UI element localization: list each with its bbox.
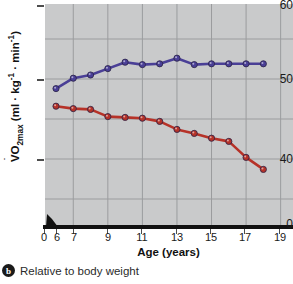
data-point-highlight bbox=[261, 168, 263, 170]
data-point-highlight bbox=[71, 107, 73, 109]
data-point bbox=[174, 126, 180, 132]
data-point-highlight bbox=[71, 76, 73, 78]
x-tick-label-7: 7 bbox=[71, 231, 77, 243]
y-tick-label-60: 60 bbox=[259, 0, 293, 12]
data-point bbox=[191, 62, 197, 68]
data-point bbox=[191, 130, 197, 136]
y-title-sup1: -1 bbox=[7, 73, 16, 80]
x-axis-title: Age (years) bbox=[44, 246, 293, 258]
x-tick-label-9: 9 bbox=[105, 231, 111, 243]
y-tick-60 bbox=[37, 5, 44, 7]
data-point bbox=[105, 114, 111, 120]
data-point-highlight bbox=[261, 62, 263, 64]
y-axis-title: ̇VO2max (ml · kg-1 · min-1) bbox=[7, 0, 24, 197]
data-point-highlight bbox=[210, 62, 212, 64]
y-title-v: V bbox=[9, 154, 21, 162]
y-tick-40 bbox=[37, 159, 44, 161]
y-axis-break-gap bbox=[40, 214, 44, 217]
data-point bbox=[122, 114, 128, 120]
data-point-highlight bbox=[89, 73, 91, 75]
figure-panel: 60 50 40 0 0 6 7 9 11 13 15 17 19 ̇VO2ma… bbox=[0, 0, 293, 284]
x-tick-label-19: 19 bbox=[274, 231, 286, 243]
data-point bbox=[139, 115, 145, 121]
data-point bbox=[87, 72, 93, 78]
data-point-highlight bbox=[158, 120, 160, 122]
figure-caption: b Relative to body weight bbox=[2, 264, 292, 277]
series-line-girls bbox=[56, 106, 263, 169]
data-point-highlight bbox=[89, 108, 91, 110]
y-title-mid: · min bbox=[9, 42, 21, 73]
data-point bbox=[157, 61, 163, 67]
series-plot bbox=[44, 4, 293, 226]
x-tick-label-17: 17 bbox=[239, 231, 251, 243]
x-tick-label-13: 13 bbox=[171, 231, 183, 243]
plot-area bbox=[44, 4, 293, 226]
data-point-highlight bbox=[158, 62, 160, 64]
data-point bbox=[70, 106, 76, 112]
y-title-units: (ml · kg bbox=[9, 80, 21, 124]
data-point-highlight bbox=[54, 87, 56, 89]
data-point-highlight bbox=[192, 63, 194, 65]
y-title-o: O bbox=[9, 145, 21, 154]
data-point bbox=[243, 61, 249, 67]
data-point-highlight bbox=[141, 116, 143, 118]
data-point bbox=[260, 166, 266, 172]
data-point-highlight bbox=[106, 67, 108, 69]
axis-break-icon bbox=[45, 210, 61, 228]
data-point-highlight bbox=[192, 132, 194, 134]
data-point-highlight bbox=[175, 56, 177, 58]
data-point bbox=[226, 138, 232, 144]
x-tick-label-0: 0 bbox=[41, 231, 47, 243]
data-point bbox=[70, 75, 76, 81]
data-point bbox=[243, 154, 249, 160]
x-tick-label-6: 6 bbox=[54, 231, 60, 243]
data-point bbox=[53, 86, 59, 92]
y-tick-label-40: 40 bbox=[259, 152, 293, 166]
x-tick-label-15: 15 bbox=[205, 231, 217, 243]
data-point bbox=[122, 59, 128, 65]
caption-text: Relative to body weight bbox=[20, 265, 139, 277]
data-point bbox=[208, 61, 214, 67]
data-point-highlight bbox=[106, 115, 108, 117]
data-point bbox=[139, 62, 145, 68]
data-point-highlight bbox=[123, 116, 125, 118]
data-point-highlight bbox=[227, 62, 229, 64]
data-point bbox=[87, 106, 93, 112]
data-point-highlight bbox=[141, 63, 143, 65]
y-title-sub: 2max bbox=[16, 124, 25, 145]
data-point-highlight bbox=[175, 128, 177, 130]
data-point bbox=[174, 55, 180, 61]
data-point bbox=[260, 61, 266, 67]
data-point bbox=[208, 135, 214, 141]
y-tick-label-50: 50 bbox=[259, 72, 293, 86]
y-title-close: ) bbox=[9, 31, 21, 35]
y-axis-line bbox=[43, 2, 45, 228]
y-tick-50 bbox=[37, 79, 44, 81]
caption-badge: b bbox=[2, 264, 15, 277]
x-axis-line bbox=[43, 225, 293, 229]
data-point bbox=[105, 66, 111, 72]
data-point-highlight bbox=[244, 156, 246, 158]
data-point bbox=[53, 103, 59, 109]
data-point-highlight bbox=[227, 140, 229, 142]
data-point-highlight bbox=[210, 136, 212, 138]
y-title-sup2: -1 bbox=[7, 35, 16, 42]
x-tick-label-11: 11 bbox=[136, 231, 147, 243]
data-point bbox=[226, 61, 232, 67]
data-point-highlight bbox=[244, 62, 246, 64]
y-tick-label-0: 0 bbox=[259, 217, 293, 231]
data-point-highlight bbox=[123, 60, 125, 62]
data-point bbox=[157, 118, 163, 124]
data-point-highlight bbox=[54, 104, 56, 106]
